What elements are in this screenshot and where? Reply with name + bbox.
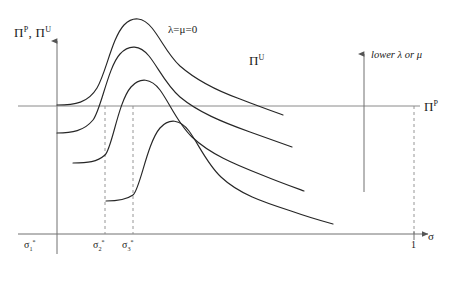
curve-4 <box>106 121 333 224</box>
annotation-lower-lambda-or-mu: lower λ or μ <box>371 50 422 61</box>
x-tick-label-unity: 1 <box>411 240 416 250</box>
x-tick-sigma-1-sub: 1 <box>29 245 32 252</box>
curve-label-pi-u-sup: U <box>258 53 264 62</box>
figure-container: ΠP, ΠU λ=μ=0 ΠU ΠP lower λ or μ σ1* σ2* … <box>0 0 456 286</box>
x-tick-sigma-1-sup: * <box>32 238 35 245</box>
x-tick-label-sigma-1-star: σ1* <box>24 240 36 250</box>
x-tick-label-sigma-3-star: σ3* <box>122 240 134 250</box>
line-label-pi-p-base: Π <box>424 99 433 114</box>
y-axis-label-separator: , Π <box>28 25 45 40</box>
x-tick-sigma-3-sub: 3 <box>127 245 130 252</box>
x-axis-label: σ <box>428 231 434 242</box>
line-label-pi-p-sup: P <box>433 99 437 108</box>
curve-label-pi-u-base: Π <box>249 53 258 68</box>
y-axis-label-sup-u: U <box>45 25 51 34</box>
y-axis-label: ΠP, ΠU <box>14 26 51 39</box>
annotation-lambda-mu-zero: λ=μ=0 <box>168 24 197 35</box>
figure-canvas <box>0 0 456 286</box>
x-tick-sigma-2-sub: 2 <box>98 245 101 252</box>
line-label-pi-p: ΠP <box>424 100 438 113</box>
profit-curve-group <box>57 19 333 224</box>
y-axis-label-pi-p: Π <box>14 25 24 40</box>
x-tick-label-sigma-2-star: σ2* <box>93 240 105 250</box>
curve-label-pi-u: ΠU <box>249 54 264 67</box>
x-tick-sigma-2-sup: * <box>101 238 104 245</box>
x-tick-sigma-3-sup: * <box>130 238 133 245</box>
curve-3 <box>73 80 304 191</box>
